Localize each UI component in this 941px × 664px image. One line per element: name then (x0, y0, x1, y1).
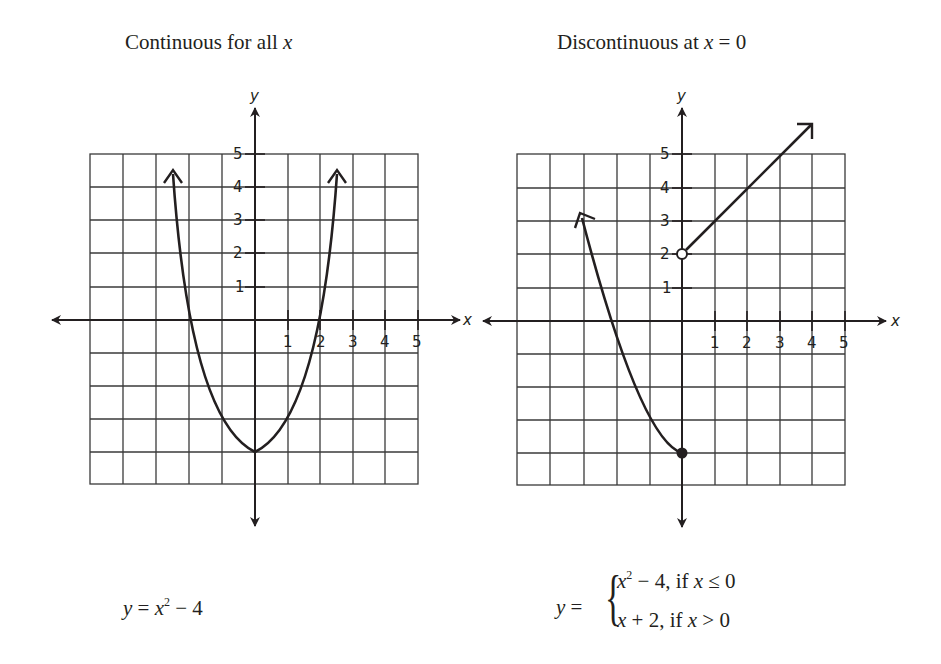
right-eq-lhs: y (556, 595, 565, 619)
piecewise-case-1: x2 − 4, if x ≤ 0 (617, 568, 736, 594)
right-x-tick-1: 1 (710, 334, 720, 352)
right-x-tick-3: 3 (775, 334, 785, 352)
right-ticks (672, 154, 845, 331)
right-y-tick-2: 2 (660, 245, 670, 263)
left-y-tick-3: 3 (233, 211, 243, 229)
case1-rest: − 4, if (632, 569, 693, 593)
left-y-tick-1: 1 (235, 278, 245, 296)
right-equation-lhs: y = (556, 595, 582, 620)
right-x-tick-5: 5 (839, 334, 849, 352)
right-x-tick-labels: 1 2 3 4 5 (710, 334, 849, 352)
case2-base: x (617, 608, 626, 632)
left-y-axis-label: y (249, 87, 260, 105)
right-y-axis-label: y (676, 87, 687, 105)
right-y-tick-3: 3 (660, 212, 670, 230)
right-y-tick-1: 1 (662, 279, 672, 297)
left-eq-base: x (155, 596, 164, 620)
left-graph: 5 4 3 2 1 1 2 3 4 5 y x (52, 87, 472, 526)
right-x-tick-2: 2 (742, 334, 752, 352)
left-x-tick-4: 4 (380, 333, 390, 351)
left-x-tick-labels: 1 2 3 4 5 (283, 333, 422, 351)
case1-var: x (694, 569, 703, 593)
case2-cond: > 0 (697, 608, 730, 632)
left-x-tick-2: 2 (316, 333, 326, 351)
right-y-tick-4: 4 (660, 179, 670, 197)
left-eq-rest: − 4 (170, 596, 203, 620)
left-x-tick-1: 1 (283, 333, 293, 351)
right-y-tick-5: 5 (660, 145, 670, 163)
right-x-axis-label: x (890, 312, 900, 330)
right-graph: 5 4 3 2 1 1 2 3 4 5 y x (483, 87, 900, 527)
case1-cond: ≤ 0 (703, 569, 736, 593)
case2-rest: + 2, if (626, 608, 687, 632)
right-linear-branch (686, 124, 812, 250)
left-x-axis-label: x (462, 311, 472, 329)
left-x-tick-5: 5 (412, 333, 422, 351)
left-eq-lhs: y (123, 596, 132, 620)
case2-var: x (688, 608, 697, 632)
closed-point-icon (677, 448, 688, 459)
left-x-tick-3: 3 (348, 333, 358, 351)
left-y-tick-4: 4 (233, 178, 243, 196)
case1-base: x (617, 569, 626, 593)
piecewise-case-2: x + 2, if x > 0 (617, 608, 730, 633)
open-point-icon (677, 249, 687, 259)
left-equation: y = x2 − 4 (123, 595, 203, 621)
left-eq-equals: = (132, 596, 154, 620)
graphs-canvas: 5 4 3 2 1 1 2 3 4 5 y x (0, 0, 941, 664)
right-eq-equals: = (565, 595, 582, 619)
left-y-tick-5: 5 (233, 145, 243, 163)
left-y-tick-2: 2 (233, 244, 243, 262)
right-x-tick-4: 4 (807, 334, 817, 352)
